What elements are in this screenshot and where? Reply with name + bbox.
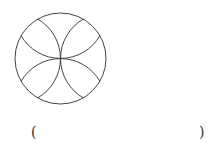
answer-close-paren: ) [199,125,204,139]
answer-open-paren: ( [31,125,36,139]
